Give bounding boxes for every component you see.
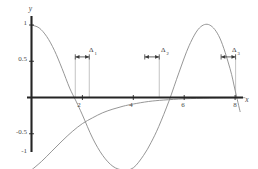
y-tick-label-0_5: 0.5 (18, 55, 27, 63)
curve-rising (32, 98, 246, 169)
y-tick-label-1: 1 (24, 19, 28, 27)
plot-figure: y x 1 0.5 -0.5 -1 2 4 6 8 Δ 1 Δ 2 Δ 3 (0, 0, 258, 169)
x-tick-label-6: 6 (181, 101, 185, 109)
delta-3-label: Δ (232, 46, 237, 54)
delta-2-subscript: 2 (167, 51, 170, 56)
x-tick-label-8: 8 (233, 101, 237, 109)
delta-annotations-group (75, 54, 235, 59)
y-tick-label-neg0_5: -0.5 (16, 128, 28, 136)
x-tick-label-4: 4 (129, 101, 133, 109)
delta-1-subscript: 1 (95, 51, 98, 56)
x-axis-label: x (244, 95, 249, 104)
annotation-droplines (75, 58, 235, 98)
y-tick-label-neg1: -1 (21, 147, 27, 155)
delta-2-label: Δ (161, 46, 166, 54)
x-tick-label-2: 2 (77, 101, 81, 109)
delta-1-label: Δ (89, 46, 94, 54)
y-axis-label: y (28, 4, 33, 13)
delta-3-subscript: 3 (238, 51, 241, 56)
